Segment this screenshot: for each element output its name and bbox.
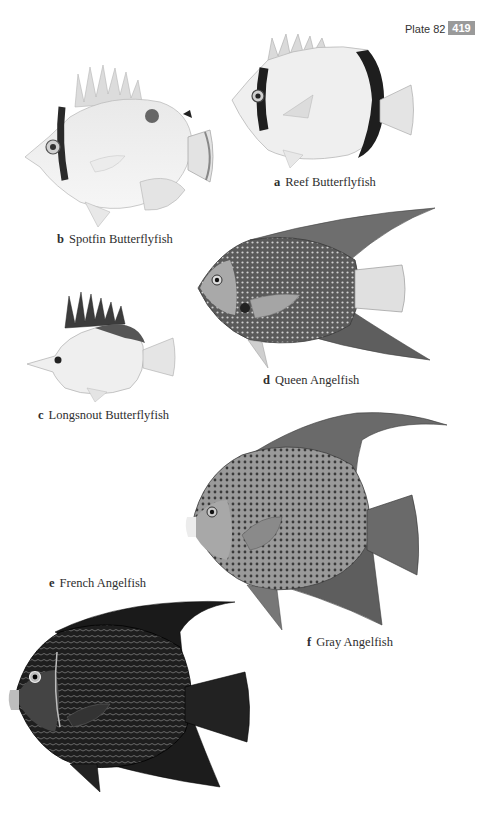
longsnout-butterflyfish-illustration	[25, 288, 180, 403]
reef-butterflyfish-illustration	[228, 30, 418, 170]
figure-name: Longsnout Butterflyfish	[49, 408, 169, 422]
figure-letter: d	[263, 373, 270, 387]
figure-name: Gray Angelfish	[316, 635, 393, 649]
figure-name: Reef Butterflyfish	[285, 175, 376, 189]
caption-french-angelfish: eFrench Angelfish	[49, 576, 146, 591]
figure-name: Spotfin Butterflyfish	[69, 232, 173, 246]
page-number-badge: 419	[448, 21, 475, 35]
queen-angelfish-illustration	[190, 200, 445, 370]
figure-letter: c	[38, 408, 44, 422]
figure-letter: a	[274, 175, 280, 189]
french-angelfish-illustration	[5, 592, 255, 792]
caption-queen-angelfish: dQueen Angelfish	[263, 373, 359, 388]
caption-gray-angelfish: fGray Angelfish	[307, 635, 393, 650]
caption-spotfin-butterflyfish: bSpotfin Butterflyfish	[57, 232, 173, 247]
figure-letter: f	[307, 635, 311, 649]
figure-name: French Angelfish	[60, 576, 146, 590]
figure-letter: e	[49, 576, 55, 590]
figure-letter: b	[57, 232, 64, 246]
figure-name: Queen Angelfish	[275, 373, 359, 387]
caption-reef-butterflyfish: aReef Butterflyfish	[274, 175, 376, 190]
caption-longsnout-butterflyfish: cLongsnout Butterflyfish	[38, 408, 169, 423]
